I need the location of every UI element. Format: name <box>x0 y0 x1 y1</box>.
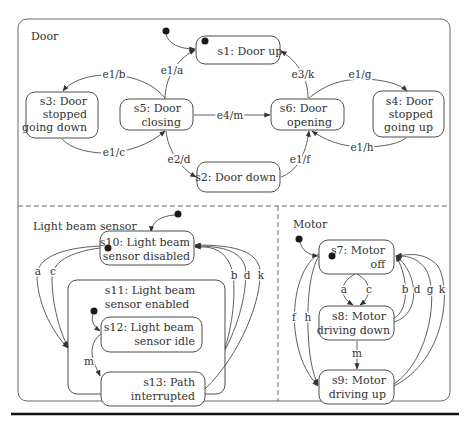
transition-k <box>394 255 444 386</box>
svg-text:k: k <box>258 269 265 281</box>
svg-text:s4: Door: s4: Door <box>386 95 434 108</box>
initial-marker-icon <box>202 38 209 45</box>
svg-text:s12: Light beam: s12: Light beam <box>104 321 195 334</box>
svg-text:s3: Door: s3: Door <box>40 95 88 108</box>
svg-text:e2/d: e2/d <box>167 153 190 165</box>
svg-text:driving up: driving up <box>329 388 386 401</box>
state-label: s1: Door up <box>218 45 283 58</box>
svg-text:e1/f: e1/f <box>290 153 311 165</box>
svg-text:f: f <box>292 311 297 323</box>
state-s5[interactable]: s5: Door closing <box>120 99 193 130</box>
svg-text:going up: going up <box>384 121 433 134</box>
svg-text:s7: Motor: s7: Motor <box>331 244 386 257</box>
svg-text:s5: Door: s5: Door <box>134 102 182 115</box>
svg-text:a: a <box>35 265 41 277</box>
svg-text:interrupted: interrupted <box>131 390 195 403</box>
svg-text:c: c <box>366 283 372 295</box>
svg-text:b: b <box>231 269 238 281</box>
state-s12[interactable]: s12: Light beam sensor idle <box>101 317 202 352</box>
svg-text:a: a <box>341 283 347 295</box>
initial-pseudostate-icon <box>175 211 182 218</box>
svg-text:g: g <box>427 283 434 295</box>
svg-text:e1/h: e1/h <box>350 141 373 153</box>
svg-text:stopped: stopped <box>389 108 433 121</box>
transition-initial-s1 <box>166 34 195 49</box>
initial-pseudostate-icon <box>163 28 170 35</box>
state-machine-diagram: Door Light beam sensor Motor s1: Door up… <box>0 0 465 444</box>
transition-initial-s10 <box>151 215 175 232</box>
state-s10[interactable]: s10: Light beam sensor disabled <box>100 231 194 265</box>
svg-text:k: k <box>439 283 446 295</box>
svg-text:s10: Light beam: s10: Light beam <box>100 236 191 249</box>
svg-text:e1/c: e1/c <box>103 146 125 158</box>
state-s13[interactable]: s13: Path interrupted <box>101 372 205 406</box>
state-s7[interactable]: s7: Motor off <box>319 240 394 274</box>
svg-text:m: m <box>352 347 362 359</box>
svg-text:h: h <box>305 311 312 323</box>
svg-text:s2: Door down: s2: Door down <box>195 171 276 184</box>
state-s6[interactable]: s6: Door opening <box>271 99 344 130</box>
state-s9[interactable]: s9: Motor driving up <box>319 370 394 404</box>
svg-text:s13: Path: s13: Path <box>143 376 195 389</box>
svg-text:d: d <box>244 269 251 281</box>
initial-pseudostate-icon <box>91 308 98 315</box>
svg-text:opening: opening <box>287 116 332 129</box>
svg-text:driving down: driving down <box>317 324 390 337</box>
state-s1[interactable]: s1: Door up <box>196 36 282 64</box>
svg-text:d: d <box>414 283 421 295</box>
svg-text:stopped: stopped <box>43 108 87 121</box>
svg-text:off: off <box>371 258 387 271</box>
initial-pseudostate-icon <box>296 236 303 243</box>
svg-text:e4/m: e4/m <box>217 109 243 121</box>
svg-text:e3/k: e3/k <box>292 68 315 80</box>
svg-text:s8: Motor: s8: Motor <box>332 310 387 323</box>
state-s3[interactable]: s3: Door stopped going down <box>22 92 98 138</box>
state-s4[interactable]: s4: Door stopped going up <box>373 91 444 137</box>
state-s8[interactable]: s8: Motor driving down <box>317 306 394 340</box>
svg-text:sensor disabled: sensor disabled <box>103 250 190 263</box>
svg-text:s9: Motor: s9: Motor <box>332 374 387 387</box>
svg-text:c: c <box>50 265 56 277</box>
svg-text:going down: going down <box>22 121 87 134</box>
region-label-motor: Motor <box>293 218 328 231</box>
svg-text:b: b <box>402 283 409 295</box>
state-s2[interactable]: s2: Door down <box>195 162 280 192</box>
region-label-door: Door <box>31 30 59 43</box>
svg-text:s6: Door: s6: Door <box>280 102 328 115</box>
svg-text:m: m <box>84 355 94 367</box>
svg-text:sensor enabled: sensor enabled <box>105 298 190 311</box>
svg-text:e1/a: e1/a <box>161 64 184 76</box>
svg-text:sensor idle: sensor idle <box>134 335 195 348</box>
svg-text:e1/b: e1/b <box>102 68 125 80</box>
svg-text:e1/g: e1/g <box>348 68 371 80</box>
svg-text:s11: Light beam: s11: Light beam <box>105 284 196 297</box>
svg-text:closing: closing <box>141 116 181 129</box>
transition-initial-s7 <box>300 242 318 256</box>
